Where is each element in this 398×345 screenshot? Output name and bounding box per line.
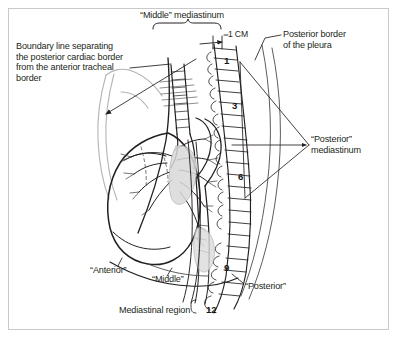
posterior-region-label: “Posterior”	[245, 281, 286, 292]
posterior-pleura-line	[241, 45, 280, 299]
mediastinal-region-label: Mediastinal region	[119, 305, 190, 316]
rib-hatching	[160, 79, 198, 106]
vertebra-number-1: 1	[224, 55, 229, 66]
middle-region-label: “Middle”	[152, 274, 184, 285]
posterior-pleura-label: Posterior border of the pleura	[283, 29, 346, 50]
boundary-line-note: Boundary line separating the posterior c…	[16, 41, 123, 83]
vertebral-column	[214, 44, 251, 313]
scale-label: 1 CM	[228, 30, 248, 40]
vertebra-number-3: 3	[232, 100, 237, 111]
vertebra-number-9: 9	[224, 262, 229, 273]
anterior-region-label: “Anterior”	[90, 265, 126, 276]
vertebra-number-12: 12	[206, 304, 217, 315]
heart-inner-contour	[113, 153, 172, 250]
posterior-mediastinum-label: “Posterior” mediastinum	[311, 134, 361, 155]
vertebra-number-6: 6	[238, 171, 243, 182]
figure-root: Boundary line separating the posterior c…	[0, 0, 398, 345]
boundary-line	[138, 58, 169, 233]
middle-mediastinum-label: “Middle” mediastinum	[140, 10, 224, 21]
